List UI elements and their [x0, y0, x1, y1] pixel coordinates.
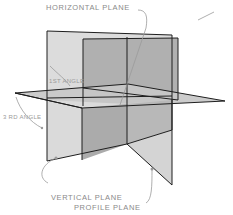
third-angle-label: 3 RD ANGLE: [3, 114, 41, 120]
first-angle-label: 1ST ANGLE: [49, 78, 84, 84]
profile-plane-lower-dark: [82, 104, 127, 160]
profile-plane-label: PROFILE PLANE: [74, 204, 141, 212]
vertical-plane-label: VERTICAL PLANE: [51, 194, 122, 202]
projection-planes-diagram: [0, 0, 233, 215]
horizontal-plane-label: HORIZONTAL PLANE: [46, 4, 130, 12]
